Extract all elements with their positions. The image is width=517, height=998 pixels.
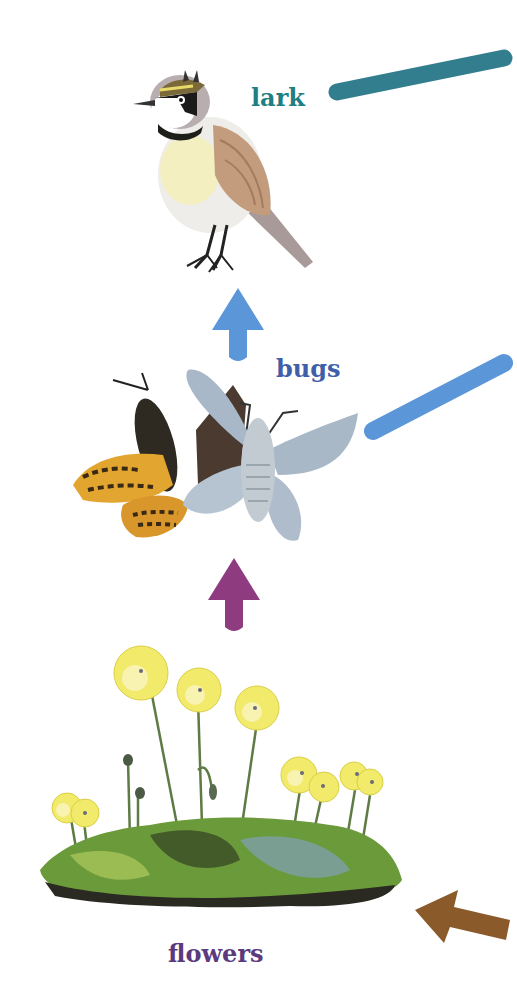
arrow-up-flowers-to-bugs-icon <box>204 555 264 635</box>
lark-bird-icon <box>125 40 325 280</box>
lark-label: lark <box>251 86 305 110</box>
arrow-into-flowers-icon <box>410 885 517 965</box>
arrow-up-bugs-to-lark-icon <box>208 285 268 365</box>
butterfly-moth-icon <box>68 365 368 555</box>
flowers-label: flowers <box>168 942 264 966</box>
arctic-poppy-moss-icon <box>30 630 410 910</box>
